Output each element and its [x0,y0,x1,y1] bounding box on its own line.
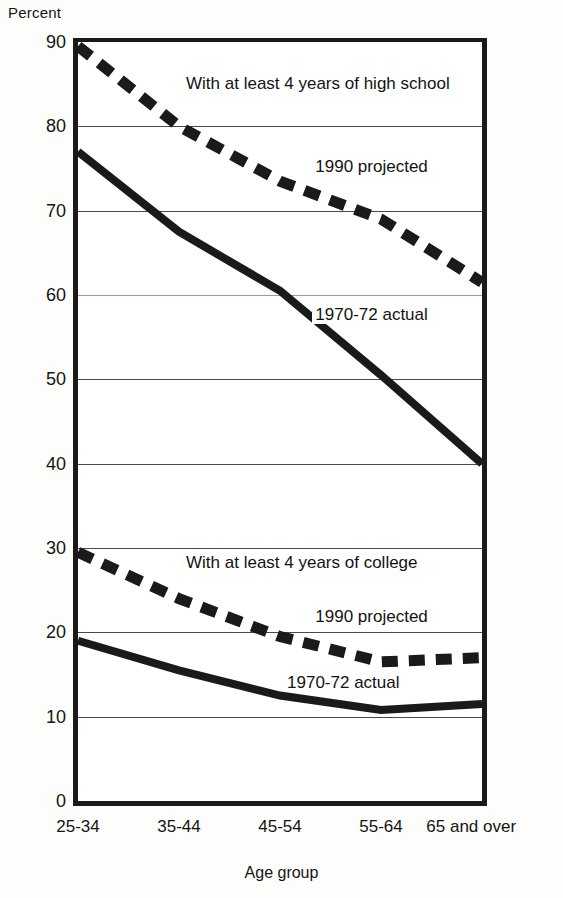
y-tick-label-70: 70 [22,202,66,220]
x-tick-label-4: 65 and over [426,818,516,836]
x-tick-label-1: 35-44 [157,818,200,836]
y-tick-label-0: 0 [22,792,66,810]
chart-annotation-0: With at least 4 years of high school [183,74,453,93]
chart-annotation-3: With at least 4 years of college [183,553,421,572]
y-tick-label-60: 60 [22,286,66,304]
plot-inner: With at least 4 years of high school1990… [78,42,482,801]
series-line-3 [78,641,482,710]
y-tick-label-30: 30 [22,539,66,557]
chart-annotation-2: 1970-72 actual [312,305,430,324]
y-tick-label-40: 40 [22,455,66,473]
y-tick-label-90: 90 [22,33,66,51]
x-tick-label-2: 45-54 [258,818,301,836]
x-tick-label-3: 55-64 [359,818,402,836]
x-tick-label-0: 25-34 [56,818,99,836]
y-axis-unit-title: Percent [8,4,61,21]
y-tick-label-10: 10 [22,708,66,726]
y-tick-label-50: 50 [22,370,66,388]
y-tick-label-80: 80 [22,117,66,135]
plot-area: With at least 4 years of high school1990… [73,38,487,806]
x-axis-title: Age group [0,864,563,882]
chart-annotation-4: 1990 projected [312,607,430,626]
y-tick-label-20: 20 [22,623,66,641]
chart-figure: Percent With at least 4 years of high sc… [0,0,563,898]
chart-annotation-1: 1990 projected [312,157,430,176]
chart-annotation-5: 1970-72 actual [284,673,402,692]
